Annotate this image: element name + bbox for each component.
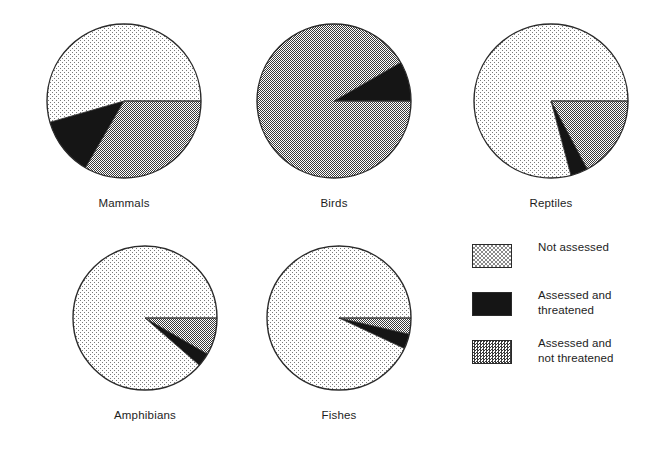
- legend-swatch-assessed-not-threatened: [472, 340, 512, 364]
- pie-reptiles: [474, 24, 628, 178]
- pie-mammals: [47, 24, 201, 178]
- pie-label-mammals: Mammals: [24, 197, 224, 209]
- legend-item-not-assessed: Not assessed: [472, 240, 652, 288]
- pie-birds: [257, 24, 411, 178]
- legend-label: Assessed andthreatened: [538, 288, 611, 318]
- legend-swatch-not-assessed: [472, 244, 512, 268]
- chart-legend: Not assessedAssessed andthreatenedAssess…: [472, 240, 652, 384]
- pie-label-amphibians: Amphibians: [45, 409, 245, 421]
- pie-fishes: [267, 246, 411, 390]
- legend-label-line1: Not assessed: [538, 240, 609, 255]
- pie-amphibians: [73, 246, 217, 390]
- legend-label: Assessed andnot threatened: [538, 336, 614, 366]
- legend-item-assessed-not-threatened: Assessed andnot threatened: [472, 336, 652, 384]
- legend-label-line1: Assessed and: [538, 288, 611, 303]
- pie-chart-figure: MammalsBirdsReptilesAmphibiansFishes Not…: [0, 0, 658, 450]
- legend-label: Not assessed: [538, 240, 609, 255]
- legend-item-assessed-threatened: Assessed andthreatened: [472, 288, 652, 336]
- legend-swatch-assessed-threatened: [472, 292, 512, 316]
- legend-label-line2: not threatened: [538, 351, 614, 366]
- legend-label-line1: Assessed and: [538, 336, 614, 351]
- pie-label-fishes: Fishes: [239, 409, 439, 421]
- pie-label-birds: Birds: [234, 197, 434, 209]
- pie-label-reptiles: Reptiles: [451, 197, 651, 209]
- legend-label-line2: threatened: [538, 303, 611, 318]
